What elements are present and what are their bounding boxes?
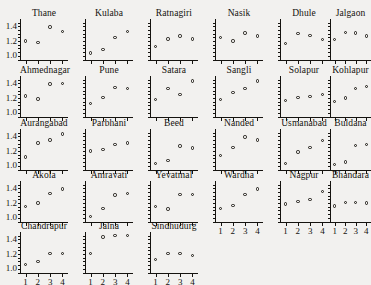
y-tick-label: 1.2 [6, 37, 17, 46]
y-tick [213, 109, 217, 110]
y-axis-line [150, 129, 151, 171]
x-tick-label: 2 [343, 227, 348, 236]
y-tick [148, 80, 152, 81]
data-point [321, 93, 324, 96]
panel-solapur: Solapur [280, 65, 328, 118]
x-tick-label: 4 [255, 227, 260, 236]
x-axis-line [85, 273, 133, 274]
y-tick [213, 158, 217, 159]
y-tick [83, 243, 87, 244]
y-tick [18, 144, 22, 145]
data-point [154, 258, 157, 261]
y-tick [83, 273, 87, 274]
y-tick [148, 239, 152, 240]
x-tick [221, 61, 222, 65]
plot-area [150, 181, 198, 223]
y-tick [213, 37, 217, 38]
y-tick [148, 98, 152, 99]
data-point [24, 155, 27, 158]
y-tick [148, 258, 152, 259]
data-point [113, 86, 116, 89]
panel-title: Jalgaon [330, 8, 371, 18]
y-tick [278, 207, 282, 208]
y-tick [83, 199, 87, 200]
plot-area [20, 232, 68, 274]
data-point [101, 235, 104, 238]
y-tick [18, 188, 22, 189]
y-tick [328, 162, 332, 163]
panel-title: Sindhudurg [150, 221, 198, 231]
x-tick-label: 2 [296, 227, 301, 236]
panel-title: Aurangabad [20, 118, 68, 128]
y-tick [18, 151, 22, 152]
x-tick-label: 3 [178, 278, 183, 285]
data-point [24, 205, 27, 208]
y-tick [148, 273, 152, 274]
y-tick [328, 94, 332, 95]
data-point [61, 82, 64, 85]
y-tick [83, 83, 87, 84]
y-tick [328, 199, 332, 200]
y-tick [328, 192, 332, 193]
y-tick [328, 210, 332, 211]
data-point [308, 198, 311, 201]
data-point [296, 200, 299, 203]
y-tick [213, 207, 217, 208]
y-tick [278, 48, 282, 49]
y-tick [278, 218, 282, 219]
y-tick [278, 166, 282, 167]
y-tick [278, 52, 282, 53]
x-tick-label: 1 [23, 278, 28, 285]
y-tick [83, 105, 87, 106]
y-tick [328, 158, 332, 159]
data-point [154, 162, 157, 165]
panel-grid: Thane1.01.21.4KulabaRatnagiriNasikDhuleJ… [0, 0, 371, 285]
panel-title: Dhule [280, 8, 328, 18]
plot-area [20, 129, 68, 171]
x-tick [298, 61, 299, 65]
y-tick [148, 158, 152, 159]
y-tick [148, 144, 152, 145]
plot-area [280, 19, 328, 61]
y-tick [148, 254, 152, 255]
y-tick [18, 147, 22, 148]
y-tick [83, 236, 87, 237]
y-tick [328, 188, 332, 189]
x-tick [156, 61, 157, 65]
panel-title: Chandrapur [20, 221, 68, 231]
plot-area [20, 19, 68, 61]
x-tick [335, 61, 336, 65]
data-point [89, 149, 92, 152]
data-point [154, 98, 157, 101]
y-tick [83, 94, 87, 95]
y-tick [83, 192, 87, 193]
data-point [354, 87, 357, 90]
y-tick [328, 155, 332, 156]
x-axis-line [20, 273, 68, 274]
y-tick [18, 37, 22, 38]
y-tick [213, 196, 217, 197]
data-point [191, 146, 194, 149]
y-tick [213, 98, 217, 99]
y-tick [328, 144, 332, 145]
y-axis-line [150, 19, 151, 61]
data-point [89, 252, 92, 255]
y-tick [148, 155, 152, 156]
y-tick [148, 269, 152, 270]
y-tick [148, 105, 152, 106]
y-tick [18, 48, 22, 49]
data-point [178, 93, 181, 96]
data-point [256, 187, 259, 190]
data-point [308, 95, 311, 98]
panel-buldana: Buldana [330, 118, 371, 171]
x-tick [168, 61, 169, 65]
y-tick-label: 1.4 [6, 235, 17, 244]
data-point [243, 135, 246, 138]
y-axis-line [150, 76, 151, 118]
y-tick [213, 144, 217, 145]
y-tick [83, 269, 87, 270]
x-tick-label: 3 [354, 227, 359, 236]
y-tick [278, 192, 282, 193]
y-tick [18, 207, 22, 208]
y-tick-labels: 1.01.21.4 [0, 19, 17, 61]
